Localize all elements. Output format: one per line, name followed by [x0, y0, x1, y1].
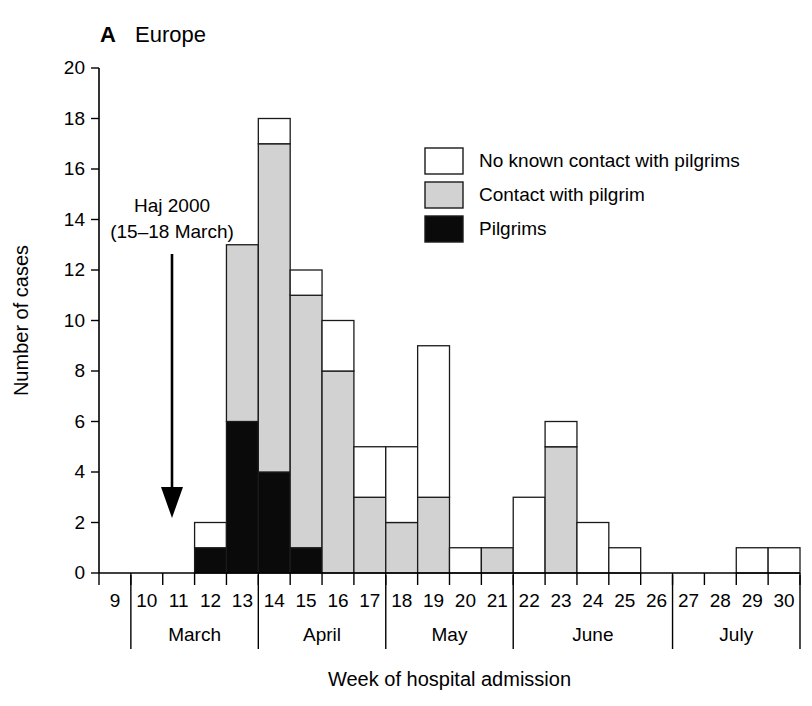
y-axis-tick-label: 18 — [64, 108, 85, 129]
haj-arrow-head — [161, 487, 183, 518]
x-axis-tick-label: 17 — [359, 590, 380, 611]
legend-label-1: Contact with pilgrim — [479, 184, 645, 205]
x-axis-tick-label: 20 — [455, 590, 476, 611]
x-axis-tick-label: 10 — [136, 590, 157, 611]
x-axis-tick-label: 22 — [519, 590, 540, 611]
bar-segment-no-contact — [195, 523, 227, 548]
bar-segment-contact — [354, 497, 386, 573]
bar-segment-pilgrims — [195, 548, 227, 573]
month-label: April — [303, 624, 341, 645]
panel-letter: A — [100, 22, 116, 47]
legend-swatch-0 — [425, 148, 463, 174]
x-axis-tick-label: 12 — [200, 590, 221, 611]
x-axis-tick-label: 19 — [423, 590, 444, 611]
x-axis-tick-label: 26 — [646, 590, 667, 611]
panel-title: Europe — [135, 22, 206, 47]
europe-stacked-bar-chart: 02468101214161820Number of cases91011121… — [0, 0, 812, 706]
legend-label-2: Pilgrims — [479, 218, 547, 239]
x-axis-tick-label: 29 — [742, 590, 763, 611]
x-axis-tick-label: 14 — [264, 590, 286, 611]
x-axis-tick-label: 21 — [487, 590, 508, 611]
month-label: June — [572, 624, 613, 645]
y-axis-tick-label: 14 — [64, 209, 86, 230]
bar-segment-contact — [290, 295, 322, 548]
y-axis-tick-label: 6 — [74, 411, 85, 432]
y-axis-tick-label: 20 — [64, 57, 85, 78]
month-label: March — [168, 624, 221, 645]
x-axis-tick-label: 27 — [678, 590, 699, 611]
bar-segment-contact — [418, 497, 450, 573]
bar-segment-contact — [481, 548, 513, 573]
x-axis-tick-label: 13 — [232, 590, 253, 611]
haj-annotation-line2: (15–18 March) — [110, 221, 234, 242]
y-axis-tick-label: 16 — [64, 158, 85, 179]
bar-segment-pilgrims — [290, 548, 322, 573]
bar-segment-no-contact — [768, 548, 800, 573]
bar-segment-no-contact — [258, 119, 290, 144]
figure-panel-a: 02468101214161820Number of cases91011121… — [0, 0, 812, 706]
x-axis-tick-label: 30 — [773, 590, 794, 611]
y-axis-tick-label: 12 — [64, 259, 85, 280]
legend-swatch-2 — [425, 216, 463, 242]
month-label: May — [432, 624, 468, 645]
x-axis-tick-label: 28 — [710, 590, 731, 611]
y-axis-tick-label: 4 — [74, 461, 85, 482]
bar-segment-contact — [545, 447, 577, 573]
bar-segment-no-contact — [418, 346, 450, 498]
y-axis-title: Number of cases — [10, 245, 32, 396]
bar-segment-no-contact — [386, 447, 418, 523]
x-axis-tick-label: 24 — [582, 590, 604, 611]
bar-segment-no-contact — [354, 447, 386, 498]
x-axis-tick-label: 16 — [327, 590, 348, 611]
y-axis-tick-label: 10 — [64, 310, 85, 331]
bar-segment-contact — [386, 523, 418, 574]
x-axis-tick-label: 18 — [391, 590, 412, 611]
x-axis-tick-label: 9 — [110, 590, 121, 611]
month-label: July — [719, 624, 753, 645]
x-axis-tick-label: 15 — [296, 590, 317, 611]
x-axis-tick-label: 23 — [550, 590, 571, 611]
bar-segment-no-contact — [609, 548, 641, 573]
bar-segment-no-contact — [513, 497, 545, 573]
bar-segment-no-contact — [545, 422, 577, 447]
bar-segment-pilgrims — [226, 422, 258, 574]
bar-segment-no-contact — [450, 548, 482, 573]
haj-annotation-line1: Haj 2000 — [134, 195, 210, 216]
legend-label-0: No known contact with pilgrims — [479, 150, 740, 171]
legend-swatch-1 — [425, 182, 463, 208]
bar-segment-pilgrims — [258, 472, 290, 573]
bar-segment-no-contact — [322, 321, 354, 372]
y-axis-tick-label: 8 — [74, 360, 85, 381]
x-axis-title: Week of hospital admission — [328, 668, 571, 690]
x-axis-tick-label: 11 — [169, 590, 189, 611]
bar-segment-no-contact — [736, 548, 768, 573]
bar-segment-no-contact — [290, 270, 322, 295]
bar-segment-no-contact — [577, 523, 609, 574]
bar-segment-contact — [258, 144, 290, 472]
bar-segment-contact — [226, 245, 258, 422]
bar-segment-contact — [322, 371, 354, 573]
x-axis-tick-label: 25 — [614, 590, 635, 611]
y-axis-tick-label: 2 — [74, 512, 85, 533]
y-axis-tick-label: 0 — [74, 562, 85, 583]
